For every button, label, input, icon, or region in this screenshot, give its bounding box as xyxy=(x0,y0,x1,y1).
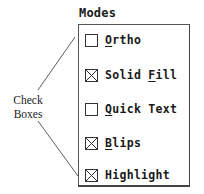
checkbox-checked-icon[interactable] xyxy=(85,137,98,150)
modes-group-box: Ortho Solid Fill Quick Text Blips Highli… xyxy=(78,24,190,187)
checkbox-label: Solid Fill xyxy=(105,68,177,82)
checkbox-quick-text[interactable]: Quick Text xyxy=(85,101,177,117)
checkbox-solid-fill[interactable]: Solid Fill xyxy=(85,67,177,83)
checkbox-label: Highlight xyxy=(105,168,170,182)
checkbox-blips[interactable]: Blips xyxy=(85,135,141,151)
callout-line-1: Check xyxy=(11,93,45,107)
checkbox-label: Blips xyxy=(105,136,141,150)
checkbox-checked-icon[interactable] xyxy=(85,69,98,82)
checkbox-ortho[interactable]: Ortho xyxy=(85,32,141,48)
callout-label: Check Boxes xyxy=(11,93,45,121)
callout-line-2: Boxes xyxy=(11,107,45,121)
checkbox-unchecked-icon[interactable] xyxy=(85,103,98,116)
checkbox-unchecked-icon[interactable] xyxy=(85,34,98,47)
group-title: Modes xyxy=(79,6,116,20)
checkbox-label: Quick Text xyxy=(105,102,177,116)
checkbox-checked-icon[interactable] xyxy=(85,169,98,182)
checkbox-highlight[interactable]: Highlight xyxy=(85,167,170,183)
checkbox-label: Ortho xyxy=(105,33,141,47)
